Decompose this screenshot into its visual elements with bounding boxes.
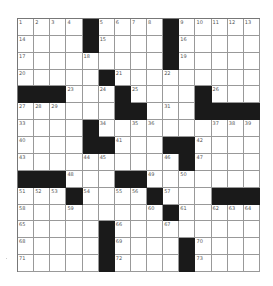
grid-cell[interactable]: 62 bbox=[212, 205, 228, 222]
grid-cell[interactable] bbox=[50, 36, 66, 53]
grid-cell[interactable] bbox=[147, 154, 163, 171]
grid-cell[interactable] bbox=[147, 238, 163, 255]
grid-cell[interactable] bbox=[244, 238, 260, 255]
grid-cell[interactable] bbox=[66, 137, 82, 154]
grid-cell[interactable] bbox=[179, 188, 195, 205]
grid-cell[interactable]: 41 bbox=[115, 137, 131, 154]
grid-cell[interactable] bbox=[195, 221, 211, 238]
grid-cell[interactable] bbox=[131, 36, 147, 53]
grid-cell[interactable]: 18 bbox=[83, 53, 99, 70]
grid-cell[interactable]: 3 bbox=[50, 19, 66, 36]
grid-cell[interactable]: 58 bbox=[18, 205, 34, 222]
grid-cell[interactable]: 65 bbox=[18, 221, 34, 238]
grid-cell[interactable]: 6 bbox=[115, 19, 131, 36]
grid-cell[interactable]: 49 bbox=[147, 171, 163, 188]
grid-cell[interactable] bbox=[212, 255, 228, 272]
grid-cell[interactable]: 43 bbox=[18, 154, 34, 171]
grid-cell[interactable] bbox=[163, 171, 179, 188]
grid-cell[interactable] bbox=[50, 137, 66, 154]
grid-cell[interactable]: 31 bbox=[163, 103, 179, 120]
grid-cell[interactable] bbox=[34, 154, 50, 171]
grid-cell[interactable] bbox=[66, 221, 82, 238]
grid-cell[interactable] bbox=[50, 255, 66, 272]
grid-cell[interactable] bbox=[244, 36, 260, 53]
grid-cell[interactable] bbox=[66, 53, 82, 70]
grid-cell[interactable]: 73 bbox=[195, 255, 211, 272]
grid-cell[interactable] bbox=[179, 120, 195, 137]
grid-cell[interactable] bbox=[195, 188, 211, 205]
grid-cell[interactable] bbox=[66, 154, 82, 171]
grid-cell[interactable] bbox=[34, 255, 50, 272]
grid-cell[interactable] bbox=[99, 103, 115, 120]
grid-cell[interactable]: 56 bbox=[131, 188, 147, 205]
grid-cell[interactable] bbox=[115, 36, 131, 53]
grid-cell[interactable] bbox=[147, 137, 163, 154]
grid-cell[interactable] bbox=[244, 53, 260, 70]
grid-cell[interactable]: 70 bbox=[195, 238, 211, 255]
grid-cell[interactable] bbox=[163, 238, 179, 255]
grid-cell[interactable]: 9 bbox=[179, 19, 195, 36]
grid-cell[interactable]: 25 bbox=[131, 86, 147, 103]
grid-cell[interactable] bbox=[66, 255, 82, 272]
grid-cell[interactable]: 19 bbox=[179, 53, 195, 70]
grid-cell[interactable]: 27 bbox=[18, 103, 34, 120]
grid-cell[interactable]: 2 bbox=[34, 19, 50, 36]
grid-cell[interactable] bbox=[228, 238, 244, 255]
grid-cell[interactable] bbox=[34, 70, 50, 87]
grid-cell[interactable] bbox=[99, 53, 115, 70]
grid-cell[interactable]: 29 bbox=[50, 103, 66, 120]
grid-cell[interactable] bbox=[212, 171, 228, 188]
grid-cell[interactable] bbox=[115, 53, 131, 70]
grid-cell[interactable]: 48 bbox=[66, 171, 82, 188]
grid-cell[interactable]: 44 bbox=[83, 154, 99, 171]
grid-cell[interactable]: 7 bbox=[131, 19, 147, 36]
grid-cell[interactable] bbox=[131, 221, 147, 238]
grid-cell[interactable] bbox=[50, 238, 66, 255]
grid-cell[interactable] bbox=[179, 70, 195, 87]
grid-cell[interactable] bbox=[131, 205, 147, 222]
grid-cell[interactable]: 5 bbox=[99, 19, 115, 36]
grid-cell[interactable] bbox=[83, 221, 99, 238]
grid-cell[interactable] bbox=[228, 255, 244, 272]
grid-cell[interactable] bbox=[83, 171, 99, 188]
grid-cell[interactable] bbox=[34, 36, 50, 53]
grid-cell[interactable] bbox=[163, 120, 179, 137]
grid-cell[interactable]: 17 bbox=[18, 53, 34, 70]
grid-cell[interactable]: 20 bbox=[18, 70, 34, 87]
grid-cell[interactable]: 23 bbox=[66, 86, 82, 103]
grid-cell[interactable] bbox=[244, 221, 260, 238]
grid-cell[interactable] bbox=[147, 221, 163, 238]
grid-cell[interactable]: 11 bbox=[212, 19, 228, 36]
grid-cell[interactable] bbox=[115, 120, 131, 137]
grid-cell[interactable] bbox=[244, 255, 260, 272]
grid-cell[interactable] bbox=[50, 120, 66, 137]
grid-cell[interactable] bbox=[99, 188, 115, 205]
grid-cell[interactable] bbox=[212, 137, 228, 154]
grid-cell[interactable] bbox=[34, 53, 50, 70]
grid-cell[interactable]: 42 bbox=[195, 137, 211, 154]
grid-cell[interactable] bbox=[50, 53, 66, 70]
grid-cell[interactable]: 22 bbox=[163, 70, 179, 87]
grid-cell[interactable] bbox=[147, 53, 163, 70]
grid-cell[interactable]: 40 bbox=[18, 137, 34, 154]
grid-cell[interactable] bbox=[179, 86, 195, 103]
grid-cell[interactable] bbox=[147, 86, 163, 103]
grid-cell[interactable] bbox=[244, 137, 260, 154]
grid-cell[interactable]: 1 bbox=[18, 19, 34, 36]
grid-cell[interactable]: 36 bbox=[147, 120, 163, 137]
grid-cell[interactable]: 37 bbox=[212, 120, 228, 137]
grid-cell[interactable] bbox=[147, 103, 163, 120]
grid-cell[interactable] bbox=[195, 171, 211, 188]
grid-cell[interactable]: 4 bbox=[66, 19, 82, 36]
grid-cell[interactable]: 69 bbox=[115, 238, 131, 255]
grid-cell[interactable]: 59 bbox=[66, 205, 82, 222]
grid-cell[interactable]: 26 bbox=[212, 86, 228, 103]
grid-cell[interactable]: 13 bbox=[244, 19, 260, 36]
grid-cell[interactable] bbox=[83, 238, 99, 255]
grid-cell[interactable]: 54 bbox=[83, 188, 99, 205]
grid-cell[interactable] bbox=[179, 103, 195, 120]
grid-cell[interactable] bbox=[212, 36, 228, 53]
grid-cell[interactable]: 8 bbox=[147, 19, 163, 36]
grid-cell[interactable]: 14 bbox=[18, 36, 34, 53]
grid-cell[interactable] bbox=[147, 255, 163, 272]
